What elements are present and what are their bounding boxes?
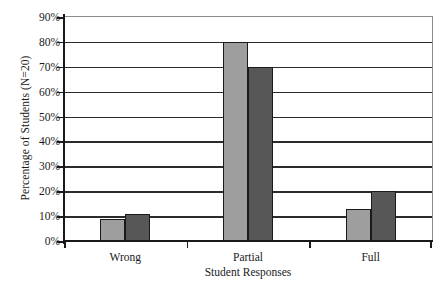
y-tick-label: 30% [22, 160, 60, 172]
bar [248, 67, 273, 241]
bar [346, 209, 371, 241]
x-tick-mark [64, 242, 66, 248]
x-category-label: Partial [188, 250, 308, 264]
x-category-label: Wrong [65, 250, 185, 264]
bar [371, 191, 396, 241]
y-tick-label: 60% [22, 86, 60, 98]
y-tick-label: 10% [22, 210, 60, 222]
x-tick-mark [430, 242, 432, 248]
y-axis-tick-labels: 90% 80% 70% 60% 50% 40% 30% 20% 10% 0% [22, 9, 60, 241]
y-tick-label: 80% [22, 36, 60, 48]
y-tick-label: 90% [22, 11, 60, 23]
bar [100, 219, 125, 241]
bar-chart: Percentage of Students (N=20) 90% 80% 70… [0, 0, 448, 292]
y-tick-label: 40% [22, 135, 60, 147]
x-tick-mark [309, 242, 311, 248]
bar [223, 42, 248, 241]
y-tick-label: 50% [22, 111, 60, 123]
x-axis-line [63, 240, 433, 242]
x-axis-title: Student Responses [64, 265, 432, 279]
x-tick-mark [187, 242, 189, 248]
y-tick-label: 70% [22, 61, 60, 73]
y-tick-label: 20% [22, 185, 60, 197]
y-tick-label: 0% [22, 235, 60, 247]
x-category-label: Full [311, 250, 431, 264]
bar [125, 214, 150, 241]
bars-layer [64, 17, 432, 241]
y-axis-line [63, 14, 65, 244]
